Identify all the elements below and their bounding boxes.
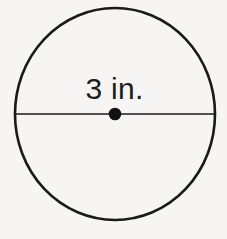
diameter-label: 3 in.	[0, 74, 227, 104]
center-point-dot	[109, 108, 122, 121]
circle-diagram: 3 in.	[0, 0, 227, 239]
circle-diagram-svg	[0, 0, 227, 239]
diameter-label-text: 3 in.	[85, 72, 143, 105]
